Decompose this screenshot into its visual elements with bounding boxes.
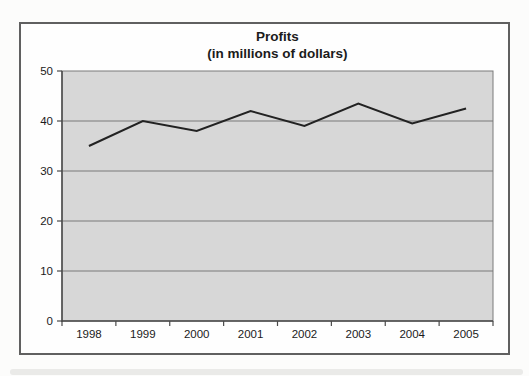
y-axis-label-30: 30: [40, 165, 53, 177]
x-axis-label-1999: 1999: [130, 328, 156, 340]
plot-area: [62, 71, 493, 321]
profits-line-chart: 0102030405019981999200020012002200320042…: [21, 24, 508, 353]
y-axis-label-10: 10: [40, 265, 53, 277]
scan-artifact: [10, 369, 523, 375]
y-axis-label-40: 40: [40, 115, 53, 127]
x-axis-label-2003: 2003: [346, 328, 372, 340]
y-axis-label-50: 50: [40, 65, 53, 77]
x-axis-label-2004: 2004: [399, 328, 425, 340]
y-axis-label-20: 20: [40, 215, 53, 227]
figure-frame: Profits (in millions of dollars) 0102030…: [19, 22, 510, 355]
y-axis-label-0: 0: [47, 315, 53, 327]
x-axis-label-2000: 2000: [184, 328, 210, 340]
x-axis-label-1998: 1998: [76, 328, 102, 340]
x-axis-label-2005: 2005: [453, 328, 479, 340]
x-axis-label-2002: 2002: [292, 328, 318, 340]
scanned-page: { "chart_data": { "type": "line", "title…: [0, 0, 529, 376]
x-axis-label-2001: 2001: [238, 328, 264, 340]
